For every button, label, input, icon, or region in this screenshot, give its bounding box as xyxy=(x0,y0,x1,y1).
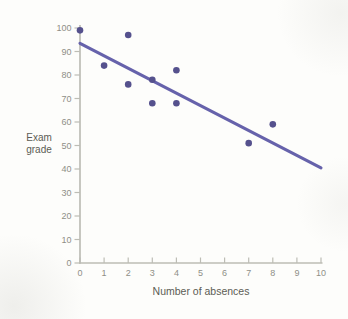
y-tick-label: 0 xyxy=(66,258,71,268)
x-tick-label: 0 xyxy=(77,268,82,278)
data-point xyxy=(125,81,132,88)
data-point xyxy=(101,62,108,69)
x-tick-label: 6 xyxy=(222,268,227,278)
y-tick-label: 60 xyxy=(61,117,71,127)
data-point xyxy=(149,76,156,83)
scatter-chart: 0102030405060708090100012345678910 xyxy=(0,0,348,319)
data-point xyxy=(245,140,252,147)
y-tick-label: 10 xyxy=(61,235,71,245)
data-point xyxy=(270,121,277,128)
data-point xyxy=(149,100,156,107)
x-tick-label: 5 xyxy=(198,268,203,278)
y-tick-label: 30 xyxy=(61,188,71,198)
x-tick-label: 4 xyxy=(174,268,179,278)
trend-line xyxy=(80,43,321,168)
data-point xyxy=(173,100,180,107)
x-tick-label: 1 xyxy=(102,268,107,278)
y-tick-label: 90 xyxy=(61,47,71,57)
y-tick-label: 40 xyxy=(61,164,71,174)
scatterplot-figure: 0102030405060708090100012345678910 Exam … xyxy=(0,0,348,319)
data-point xyxy=(77,27,84,34)
x-tick-label: 3 xyxy=(150,268,155,278)
x-tick-label: 10 xyxy=(316,268,326,278)
x-tick-label: 2 xyxy=(126,268,131,278)
page-background: 0102030405060708090100012345678910 Exam … xyxy=(0,0,348,319)
x-axis-title: Number of absences xyxy=(80,285,322,297)
data-point xyxy=(125,32,132,39)
x-tick-label: 8 xyxy=(270,268,275,278)
y-tick-label: 70 xyxy=(61,94,71,104)
x-tick-label: 7 xyxy=(246,268,251,278)
y-tick-label: 50 xyxy=(61,141,71,151)
y-tick-label: 80 xyxy=(61,70,71,80)
x-tick-label: 9 xyxy=(294,268,299,278)
trend-layer xyxy=(80,43,321,168)
y-tick-label: 20 xyxy=(61,211,71,221)
y-tick-label: 100 xyxy=(56,23,71,33)
data-point xyxy=(173,67,180,74)
y-axis-title: Exam grade xyxy=(16,132,62,155)
